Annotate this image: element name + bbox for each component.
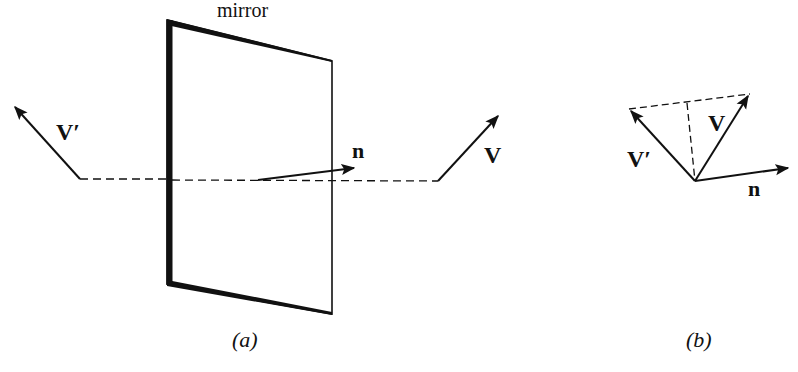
reflected-vector-label: V′ bbox=[56, 119, 80, 145]
caption-a: (a) bbox=[232, 327, 258, 352]
incident-vector-v-b bbox=[695, 96, 748, 181]
panel-a: n V′ V mirror (a) bbox=[15, 0, 502, 352]
incident-vector-label: V bbox=[484, 142, 502, 168]
mirror-plane bbox=[167, 20, 332, 314]
panel-b: V V′ n (b) bbox=[627, 94, 788, 352]
reflected-vector-label-b: V′ bbox=[627, 146, 651, 172]
normal-label-n: n bbox=[352, 138, 364, 163]
mirror-reflection-diagram: n V′ V mirror (a) V V′ n (b) bbox=[0, 0, 798, 372]
caption-b: (b) bbox=[686, 327, 712, 352]
normal-label-n-b: n bbox=[748, 176, 760, 201]
normal-vector-n-b bbox=[695, 168, 788, 181]
dashed-top-line bbox=[629, 94, 750, 109]
mirror-label: mirror bbox=[217, 0, 268, 21]
incident-vector-label-b: V bbox=[708, 110, 726, 136]
dashed-vertical-line bbox=[687, 103, 695, 181]
